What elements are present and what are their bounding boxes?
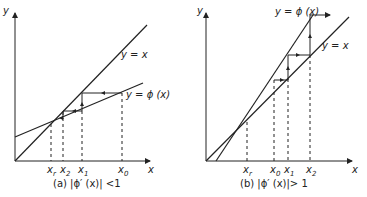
caption-b: (b) |ϕ′ (x)|> 1 xyxy=(240,179,308,189)
tick-x2-a: x2 xyxy=(60,165,70,178)
panel-b-graphics xyxy=(206,13,352,161)
tick-x2-b: x2 xyxy=(306,165,316,178)
identity-label-b: y = x xyxy=(322,41,349,51)
panel-a-graphics xyxy=(15,13,150,161)
x-axis-label-a: x xyxy=(148,165,154,175)
identity-label-a: y = x xyxy=(121,50,148,60)
identity-line-b xyxy=(206,17,349,161)
y-axis-label-a: y xyxy=(3,6,9,16)
tick-xr-b: xr xyxy=(243,165,252,178)
phi-line-a xyxy=(15,83,143,137)
tick-x0-a: x0 xyxy=(118,165,128,178)
tick-x1-a: x1 xyxy=(78,165,88,178)
y-axis-label-b: y xyxy=(197,6,203,16)
x-axis-label-b: x xyxy=(352,165,358,175)
tick-x0-b: x0 xyxy=(270,165,280,178)
tick-x1-b: x1 xyxy=(284,165,294,178)
caption-a: (a) |ϕ′ (x)| <1 xyxy=(53,179,121,189)
tick-xr-a: xr xyxy=(47,165,56,178)
phi-line-b xyxy=(216,15,313,161)
cobweb-a xyxy=(63,93,122,119)
fixed-point-iteration-figure: y x y = x y = ϕ (x) xr x2 x1 x0 (a) |ϕ′ … xyxy=(0,0,367,197)
phi-label-a: y = ϕ (x) xyxy=(126,90,170,100)
phi-label-b: y = ϕ (x) xyxy=(275,7,319,17)
dashed-guides-a xyxy=(51,93,122,161)
dashed-guides-b xyxy=(247,55,310,161)
